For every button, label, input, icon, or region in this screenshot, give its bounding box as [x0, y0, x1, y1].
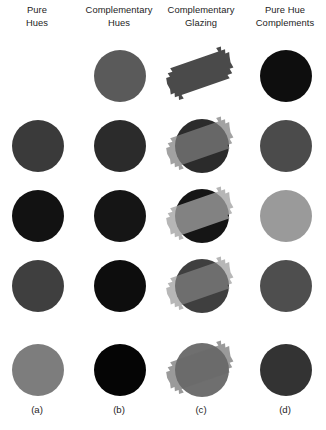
swatch-cell-b3: [82, 184, 158, 252]
color-disc-b4: [94, 260, 146, 312]
color-disc-a5: [12, 344, 64, 396]
color-disc-d5: [260, 344, 312, 396]
swatch-cell-c1: [162, 44, 238, 112]
swatch-cell-a2: [0, 114, 76, 182]
swatch-cell-a4: [0, 254, 76, 322]
swatch-grid: [0, 0, 326, 430]
swatch-cell-b4: [82, 254, 158, 322]
swatch-cell-d4: [248, 254, 324, 322]
swatch-cell-a5: [0, 338, 76, 406]
glazed-disc-2: [175, 119, 229, 173]
color-disc-a2: [12, 120, 64, 172]
glazed-disc-3: [175, 189, 229, 243]
color-disc-d2: [260, 120, 312, 172]
glaze-stroke-1: [156, 40, 244, 116]
color-disc-b5: [94, 344, 146, 396]
color-disc-d3: [260, 190, 312, 242]
column-footer-b: (b): [76, 403, 162, 417]
swatch-cell-a1: [0, 44, 76, 112]
swatch-cell-b2: [82, 114, 158, 182]
column-footer-d: (d): [242, 403, 326, 417]
swatch-cell-d2: [248, 114, 324, 182]
color-disc-a4: [12, 260, 64, 312]
swatch-cell-b5: [82, 338, 158, 406]
swatch-cell-b1: [82, 44, 158, 112]
swatch-cell-c2: [162, 114, 238, 182]
swatch-cell-a3: [0, 184, 76, 252]
color-disc-d4: [260, 260, 312, 312]
color-disc-d1: [260, 50, 312, 102]
color-disc-b3: [94, 190, 146, 242]
swatch-cell-d3: [248, 184, 324, 252]
color-disc-b2: [94, 120, 146, 172]
column-footer-a: (a): [0, 403, 80, 417]
figure-plate: Pure Hues Complementary Hues Complementa…: [0, 0, 326, 430]
glazed-disc-5: [175, 343, 229, 397]
glazed-disc-4: [175, 259, 229, 313]
swatch-cell-c4: [162, 254, 238, 322]
swatch-cell-c3: [162, 184, 238, 252]
color-disc-a3: [12, 190, 64, 242]
swatch-cell-c5: [162, 338, 238, 406]
swatch-cell-d5: [248, 338, 324, 406]
color-disc-b1: [94, 50, 146, 102]
column-footer-row: (a) (b) (c) (d): [0, 403, 326, 421]
column-footer-c: (c): [158, 403, 244, 417]
swatch-cell-d1: [248, 44, 324, 112]
